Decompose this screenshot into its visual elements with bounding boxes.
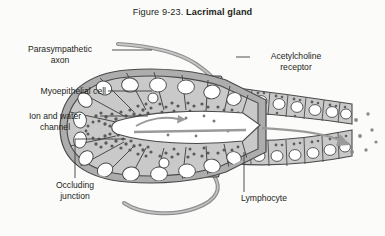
label-parasympathetic-axon: Parasympathetic axon: [8, 44, 112, 65]
label-parasympathetic-axon-line2: axon: [8, 55, 112, 66]
label-acetylcholine-receptor-line1: Acetylcholine: [248, 51, 344, 62]
label-ion-and-water-channel-line2: channel: [12, 122, 98, 133]
label-ion-and-water-channel: Ion and water channel: [12, 111, 98, 132]
label-ion-and-water-channel-line1: Ion and water: [12, 111, 98, 122]
secreted-droplets: [350, 112, 378, 154]
label-lymphocyte: Lymphocyte: [241, 193, 333, 204]
label-parasympathetic-axon-line1: Parasympathetic: [8, 44, 112, 55]
label-occluding-junction-line2: junction: [32, 191, 118, 202]
label-acetylcholine-receptor-line2: receptor: [248, 62, 344, 73]
label-acetylcholine-receptor: Acetylcholine receptor: [248, 51, 344, 72]
label-occluding-junction-line1: Occluding: [32, 180, 118, 191]
label-occluding-junction: Occluding junction: [32, 180, 118, 201]
label-myoepithelial-cell: Myoepithelial cell: [6, 86, 106, 97]
figure-container: Figure 9-23. Lacrimal gland: [0, 0, 385, 236]
